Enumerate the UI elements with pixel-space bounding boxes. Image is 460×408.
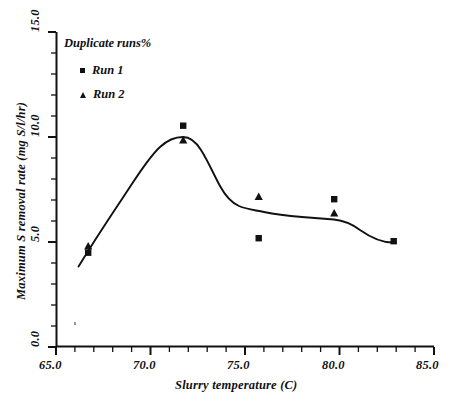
data-point-square <box>85 250 91 256</box>
legend-item-run-2-label: Run 2 <box>93 87 125 102</box>
fitted-curve <box>79 137 395 267</box>
chart-figure: 0.0 5.0 10.0 15.0 65.0 70.0 75.0 80.0 85… <box>0 0 460 408</box>
x-tick-label-4: 85.0 <box>416 358 439 373</box>
x-tick-label-0: 65.0 <box>39 358 62 373</box>
x-tick-label-1: 70.0 <box>133 358 156 373</box>
y-tick-label-3: 15.0 <box>28 9 43 32</box>
data-point-square <box>256 235 262 241</box>
legend-title: Duplicate runs% <box>64 36 151 51</box>
y-axis-title: Maximum S removal rate (mg S/l/hr) <box>14 102 29 300</box>
series-run-1-points <box>85 123 397 256</box>
scan-speck <box>74 322 76 325</box>
y-axis-minor-ticks <box>51 53 56 326</box>
data-point-square <box>391 238 397 244</box>
triangle-marker-icon <box>80 92 86 98</box>
legend-item-run-2: Run 2 <box>80 87 125 102</box>
y-tick-label-1: 5.0 <box>28 226 43 242</box>
data-point-square <box>331 196 337 202</box>
square-marker-icon <box>80 68 85 73</box>
x-axis-title: Slurry temperature (C) <box>175 378 297 393</box>
y-tick-label-2: 10.0 <box>28 114 43 137</box>
legend-item-run-1-label: Run 1 <box>92 63 124 78</box>
data-point-triangle <box>330 209 338 217</box>
data-point-square <box>180 123 186 129</box>
plot-area <box>0 0 460 408</box>
data-point-triangle <box>255 193 263 201</box>
legend-item-run-1: Run 1 <box>80 63 124 78</box>
y-axis-major-ticks <box>48 32 56 347</box>
series-run-2-points <box>84 136 338 250</box>
x-tick-label-3: 80.0 <box>322 358 345 373</box>
y-tick-label-0: 0.0 <box>28 331 43 347</box>
x-tick-label-2: 75.0 <box>227 358 250 373</box>
